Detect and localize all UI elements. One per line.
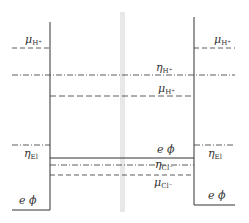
energy-level-diagram: μH⁺ ηH⁺ μH⁺ μH⁺ ηEl ηEl e ϕ ηCl⁻ μCl⁻ e …: [0, 0, 249, 223]
label-ephi-right: e ϕ: [208, 189, 226, 202]
label-eta-el-left: ηEl: [24, 147, 39, 161]
label-mu-cl: μCl⁻: [154, 176, 173, 190]
label-eta-h: ηH⁺: [156, 61, 173, 75]
center-band: [120, 12, 125, 212]
label-ephi-mid: e ϕ: [157, 143, 175, 156]
label-ephi-left: e ϕ: [19, 194, 37, 207]
label-eta-cl: ηCl⁻: [155, 158, 173, 172]
label-mu-h-mid: μH⁺: [158, 82, 175, 96]
label-mu-h-left: μH⁺: [25, 33, 42, 47]
label-eta-el-right: ηEl: [208, 147, 223, 161]
label-mu-h-right: μH⁺: [214, 33, 231, 47]
diagram-svg: μH⁺ ηH⁺ μH⁺ μH⁺ ηEl ηEl e ϕ ηCl⁻ μCl⁻ e …: [0, 0, 249, 223]
